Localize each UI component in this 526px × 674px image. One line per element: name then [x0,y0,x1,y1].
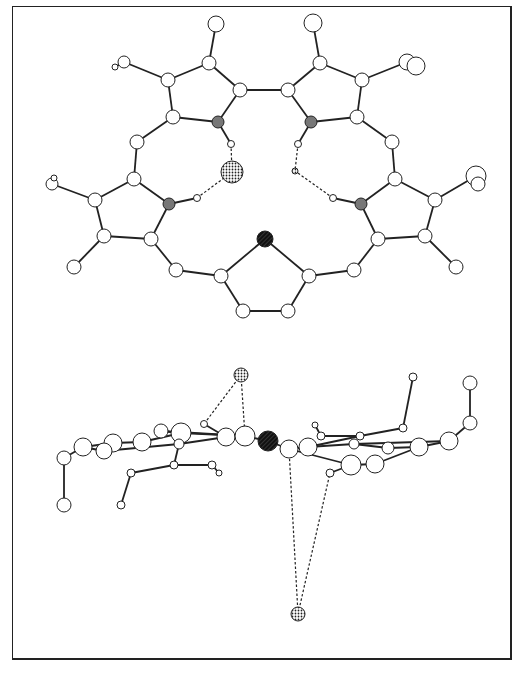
carbon-atom [202,56,216,70]
nitrogen-atom [212,116,224,128]
nitrogen-atom [163,198,175,210]
molecule-diagram [0,0,526,674]
carbon-atom [356,432,364,440]
heteroatom-atom [257,231,273,247]
carbon-atom [144,232,158,246]
carbon-atom [233,83,247,97]
carbon-atom [341,455,361,475]
carbon-atom [280,440,298,458]
hydrogen-bond [295,171,333,198]
anion-atom [291,607,305,621]
hydrogen-bond [295,144,298,171]
nitrogen-atom [305,116,317,128]
carbon-atom [304,14,322,32]
carbon-atom [57,451,71,465]
carbon-atom [410,438,428,456]
hydrogen-bond [204,375,241,424]
carbon-atom [166,110,180,124]
carbon-atom [127,469,135,477]
carbon-atom [312,422,318,428]
carbon-atom [385,135,399,149]
carbon-atom [409,373,417,381]
carbon-atom [281,83,295,97]
carbon-atom [88,193,102,207]
carbon-atom [217,428,235,446]
carbon-atom [208,461,216,469]
carbon-atom [154,424,168,438]
carbon-atom [463,416,477,430]
carbon-atom [97,229,111,243]
carbon-atom [51,175,57,181]
hydrogen-bond [289,449,298,614]
carbon-atom [201,421,208,428]
carbon-atom [236,304,250,318]
carbon-atom [161,73,175,87]
carbon-atom [349,439,359,449]
carbon-atom [117,501,125,509]
carbon-atom [130,135,144,149]
hydrogen-bond [298,473,330,614]
carbon-atom [299,438,317,456]
carbon-atom [471,177,485,191]
heteroatom-atom [258,431,278,451]
carbon-atom [118,56,130,68]
carbon-atom [295,141,302,148]
carbon-atom [112,64,118,70]
nitrogen-atom [355,198,367,210]
carbon-atom [330,195,337,202]
carbon-atom [235,426,255,446]
carbon-atom [208,16,224,32]
carbon-atom [407,57,425,75]
carbon-atom [399,424,407,432]
carbon-atom [169,263,183,277]
carbon-atom [350,110,364,124]
carbon-atom [302,269,316,283]
bond [265,239,309,276]
carbon-atom [216,470,222,476]
anion-atom [292,168,298,174]
carbon-atom [174,439,184,449]
carbon-atom [388,172,402,186]
carbon-atom [449,260,463,274]
bond [221,239,265,276]
carbon-atom [281,304,295,318]
anion-atom [221,161,243,183]
carbon-atom [317,432,325,440]
carbon-atom [67,260,81,274]
anion-atom [234,368,248,382]
carbon-atom [382,442,394,454]
carbon-atom [347,263,361,277]
carbon-atom [74,438,92,456]
carbon-atom [313,56,327,70]
carbon-atom [194,195,201,202]
bond [403,377,413,428]
carbon-atom [214,269,228,283]
carbon-atom [428,193,442,207]
top-view-structure [46,14,486,318]
carbon-atom [355,73,369,87]
carbon-atom [463,376,477,390]
carbon-atom [133,433,151,451]
side-view-structure [57,368,477,621]
carbon-atom [170,461,178,469]
bond [131,465,174,473]
bond [360,428,403,436]
carbon-atom [228,141,235,148]
bond [121,473,131,505]
carbon-atom [96,443,112,459]
carbon-atom [418,229,432,243]
carbon-atom [440,432,458,450]
carbon-atom [371,232,385,246]
carbon-atom [127,172,141,186]
carbon-atom [366,455,384,473]
carbon-atom [57,498,71,512]
carbon-atom [326,469,334,477]
